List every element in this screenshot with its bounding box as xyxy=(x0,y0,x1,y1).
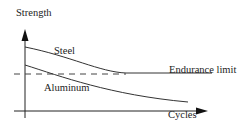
y-axis-arrow-icon xyxy=(22,29,29,41)
steel-label: Steel xyxy=(54,46,75,57)
x-axis-label: Cycles xyxy=(168,110,197,121)
aluminum-label: Aluminum xyxy=(44,83,90,94)
y-axis-label: Strength xyxy=(16,8,52,19)
endurance-limit-label: Endurance limit xyxy=(169,65,236,76)
x-axis-arrow-icon xyxy=(196,108,208,115)
